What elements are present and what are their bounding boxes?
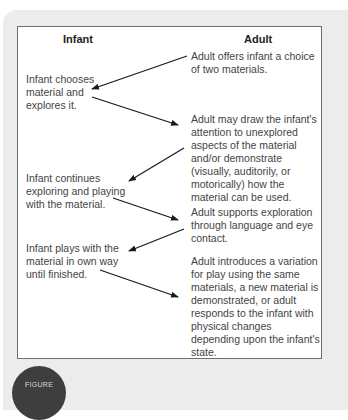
arrow-infant1-to-adult2 xyxy=(92,97,178,125)
arrow-adult1-to-infant1 xyxy=(92,56,187,89)
arrow-adult3-to-infant3 xyxy=(129,229,184,251)
figure-badge-label: FIGURE xyxy=(12,381,66,388)
figure-badge: FIGURE xyxy=(12,366,66,420)
arrow-adult2-to-infant2 xyxy=(129,148,184,181)
arrow-infant3-to-adult4 xyxy=(100,270,178,297)
arrow-infant2-to-adult3 xyxy=(113,198,178,220)
